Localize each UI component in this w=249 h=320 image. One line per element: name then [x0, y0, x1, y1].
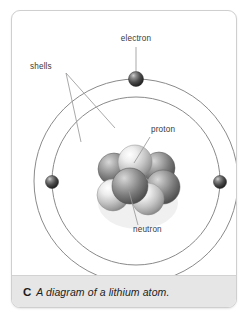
electron-right	[214, 176, 227, 189]
shells-label: shells	[30, 62, 52, 71]
electron-left	[46, 176, 59, 189]
neutron-label: neutron	[133, 225, 162, 234]
caption-letter: C	[23, 286, 31, 298]
atom-diagram-svg: electron shells proton neutron	[12, 11, 236, 276]
nucleus	[97, 145, 180, 229]
electron-top	[129, 72, 144, 87]
electron-label: electron	[121, 34, 152, 43]
caption-text: A diagram of a lithium atom.	[36, 286, 169, 298]
atom-diagram: electron shells proton neutron	[12, 11, 236, 276]
neutron-front-center	[112, 168, 148, 204]
proton-label: proton	[151, 125, 175, 134]
figure-caption: C A diagram of a lithium atom.	[12, 275, 236, 307]
figure-card: electron shells proton neutron C A diagr…	[11, 10, 237, 308]
